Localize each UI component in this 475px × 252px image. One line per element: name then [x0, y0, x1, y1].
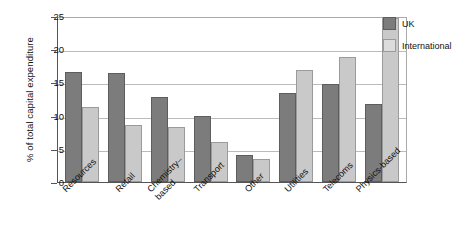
y-tick-mark [51, 83, 57, 84]
bar-uk[interactable] [279, 93, 296, 182]
y-tick-label: 10 [36, 111, 64, 122]
legend-swatch-uk [383, 17, 396, 30]
chart-legend: UK International [383, 17, 452, 61]
y-tick-label: 0 [36, 177, 64, 188]
y-tick-mark [51, 183, 57, 184]
y-tick-mark [51, 117, 57, 118]
x-tick: Physics-based [361, 185, 404, 249]
y-tick-mark [51, 150, 57, 151]
x-tick: Transport [189, 185, 232, 249]
bar-group [104, 18, 147, 182]
y-tick-label: 20 [36, 44, 64, 55]
legend-label-international: International [402, 41, 452, 51]
legend-label-uk: UK [402, 19, 415, 29]
bar-group [61, 18, 104, 182]
x-tick: Retail [103, 185, 146, 249]
x-tick: Resources [60, 185, 103, 249]
bar-group [318, 18, 361, 182]
x-tick: Chemistry– based [146, 185, 189, 249]
plot-area [57, 17, 407, 183]
x-tick: Telecoms [318, 185, 361, 249]
y-tick-label: 5 [36, 144, 64, 155]
bar-group [275, 18, 318, 182]
legend-swatch-international [383, 39, 396, 52]
y-tick-mark [51, 17, 57, 18]
bar-chart-figure: % of total capital expenditure Resources… [0, 0, 475, 252]
bar-uk[interactable] [322, 84, 339, 182]
bar-group [147, 18, 190, 182]
y-tick-label: 25 [36, 11, 64, 22]
x-tick: Utilities [275, 185, 318, 249]
y-axis-title: % of total capital expenditure [24, 15, 35, 185]
bar-international[interactable] [296, 70, 313, 182]
bar-groups [58, 18, 406, 182]
bar-uk[interactable] [108, 73, 125, 182]
x-axis-tick-labels: ResourcesRetailChemistry– basedTransport… [57, 185, 407, 249]
x-tick: Other [232, 185, 275, 249]
y-tick-label: 15 [36, 77, 64, 88]
legend-item-uk[interactable]: UK [383, 17, 452, 30]
bar-group [232, 18, 275, 182]
y-tick-mark [51, 50, 57, 51]
bar-uk[interactable] [65, 72, 82, 182]
legend-item-international[interactable]: International [383, 39, 452, 52]
bar-group [189, 18, 232, 182]
